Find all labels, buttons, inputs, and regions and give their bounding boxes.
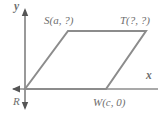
vertex-label-r: R: [13, 96, 20, 107]
y-axis-top-arrow-icon: [22, 8, 28, 16]
x-axis-left-arrow-icon: [12, 86, 20, 93]
vertex-label-s: S(a, ?): [44, 15, 73, 26]
vertex-label-w: W(c, 0): [93, 97, 125, 108]
y-axis-label: y: [14, 1, 19, 13]
vertex-label-t: T(?, ?): [120, 15, 150, 26]
x-axis-label: x: [146, 70, 152, 82]
coordinate-geometry-figure: S(a, ?) T(?, ?) W(c, 0) R y x: [0, 0, 165, 116]
parallelogram-shape: [25, 31, 146, 89]
y-axis-bottom-arrow-icon: [22, 102, 28, 110]
